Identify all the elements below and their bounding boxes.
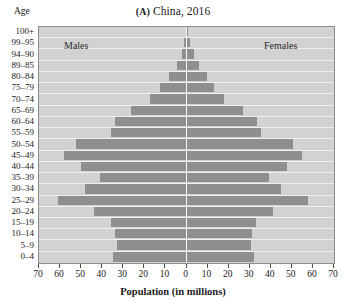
y-axis-tick-label: 15–19 [12,218,35,227]
x-axis-tick [59,264,60,268]
x-axis-tick [333,264,334,268]
x-axis-tick [207,264,208,268]
chart-title: (A) China, 2016 [0,5,346,17]
y-axis-tick-label: 0–4 [21,252,35,261]
x-axis-title: Population (in millions) [0,286,346,297]
bar-male [58,196,187,205]
y-axis-tick-label: 75–79 [12,83,35,92]
y-axis-tick-label: 55–59 [12,128,35,137]
x-axis-tick-label: 0 [175,269,197,280]
y-axis-tick-label: 94–90 [12,50,35,59]
bar-male [64,151,186,160]
x-axis-tick-labels: 70605040302010010203040506070 [0,269,346,283]
y-axis-tick-label: 25–29 [12,196,35,205]
x-axis-tick-label: 40 [259,269,281,280]
y-axis-tick-label: 10–14 [12,229,35,238]
bar-female [187,94,225,103]
y-axis-tick-label: 5–9 [21,241,35,250]
x-axis-tick-label: 20 [132,269,154,280]
bar-female [187,184,282,193]
x-axis-tick-label: 50 [69,269,91,280]
bar-male [85,184,186,193]
bar-female [187,128,262,137]
bar-male [94,207,187,216]
x-axis-tick [228,264,229,268]
y-axis-tick-label: 65–69 [12,106,35,115]
y-axis-tick-label: 89–85 [12,61,35,70]
bar-male [111,128,187,137]
plot-area [38,26,335,264]
x-axis-tick [270,264,271,268]
y-axis-tick-label: 50–54 [12,140,35,149]
x-axis-tick-label: 60 [301,269,323,280]
y-axis-tick-label: 20–24 [12,207,35,216]
x-axis-tick-label: 30 [238,269,260,280]
y-axis-tick-label: 35–39 [12,173,35,182]
bar-male [100,173,186,182]
legend-label-females: Females [264,40,297,51]
bar-male [111,218,187,227]
bar-male [160,83,186,92]
x-axis-tick [164,264,165,268]
x-axis-tick-label: 10 [153,269,175,280]
bar-female [187,139,293,148]
x-axis-tick [312,264,313,268]
y-axis-title: Age [14,6,30,16]
x-axis-tick-label: 40 [90,269,112,280]
bar-male [113,252,187,262]
bar-female [187,207,273,216]
bar-male [117,240,187,249]
y-axis-tick-label: 100+ [15,27,34,36]
bar-female [187,229,252,238]
bar-female [187,117,258,126]
bar-female [187,72,207,81]
bar-male [131,106,187,115]
bar-female [187,252,254,262]
y-axis-tick-label: 40–44 [12,162,35,171]
y-axis-tick-label: 80–84 [12,72,35,81]
y-axis-tick-label: 99–95 [12,38,35,47]
bar-male [81,162,186,171]
x-axis-tick-label: 50 [280,269,302,280]
x-axis-tick [38,264,39,268]
bar-female [187,106,244,115]
x-axis-tick-label: 30 [111,269,133,280]
bar-male [115,229,187,238]
bar-male [76,139,187,148]
x-axis-tick [122,264,123,268]
x-axis-tick [80,264,81,268]
y-axis-tick-label: 45–49 [12,151,35,160]
bar-female [187,38,190,47]
x-axis-tick-label: 20 [217,269,239,280]
bar-female [187,83,214,92]
legend-label-males: Males [64,40,88,51]
bar-female [187,196,308,205]
chart-title-text: China, 2016 [150,5,210,17]
x-axis-tick [101,264,102,268]
bar-male [150,94,187,103]
bar-female [187,218,257,227]
bar-male [169,72,187,81]
x-axis-tick [143,264,144,268]
bar-male [115,117,187,126]
bar-female [187,173,269,182]
x-axis-tick-label: 60 [48,269,70,280]
bar-female [187,162,287,171]
x-axis-tick-label: 70 [322,269,344,280]
bar-female [187,61,200,70]
y-axis-tick-label: 70–74 [12,95,35,104]
y-axis-tick-label: 30–34 [12,184,35,193]
x-axis-tick [186,264,187,268]
x-axis-tick-label: 70 [27,269,49,280]
x-axis-tick-label: 10 [196,269,218,280]
panel-mark: (A) [136,6,150,17]
y-axis-tick-labels: 100+99–9594–9089–8580–8475–7970–7465–696… [0,26,36,264]
bar-female [187,49,194,58]
center-axis-line [186,27,187,263]
population-pyramid-figure: (A) China, 2016 Age 100+99–9594–9089–858… [0,0,346,308]
bar-female [187,240,251,249]
bar-female [187,151,303,160]
y-axis-tick-label: 60–64 [12,117,35,126]
x-axis-tick [291,264,292,268]
x-axis-tick [249,264,250,268]
